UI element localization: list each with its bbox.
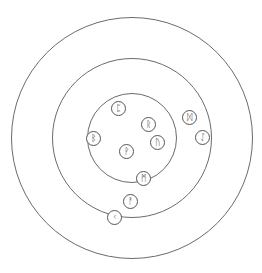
rune-wunjo-icon: ᚹ — [119, 144, 134, 159]
rune-dagaz-icon: ᛞ — [182, 110, 197, 125]
rune-raidho-icon: ᚱ — [141, 117, 156, 132]
rune-uruz-icon: ᚢ — [150, 135, 165, 150]
rune-berkano-icon: ᛒ — [86, 131, 101, 146]
rune-kaunan-icon: ᚲ — [107, 210, 122, 225]
rune-diagram: ᛈ ᚱ ᛒ ᚹ ᚢ ᛞ ᛇ ᛗ ᚨ ᚲ — [0, 0, 262, 273]
rune-mannaz-icon: ᛗ — [136, 171, 151, 186]
rune-perthro-icon: ᛈ — [111, 101, 126, 116]
rune-ansuz-icon: ᚨ — [123, 194, 138, 209]
rune-eihwaz-icon: ᛇ — [195, 130, 210, 145]
